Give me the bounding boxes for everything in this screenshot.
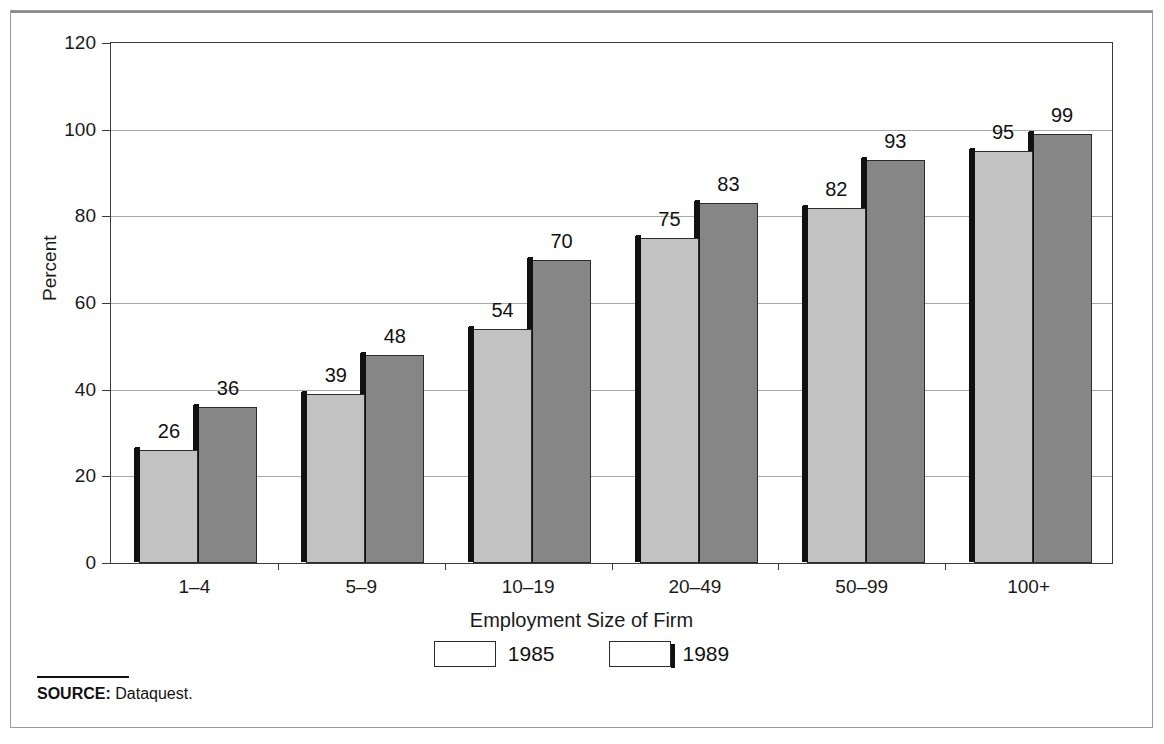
- bar-shadow: [969, 149, 975, 562]
- gridline: [111, 390, 1112, 391]
- bar-1985-20_49[interactable]: [640, 238, 699, 563]
- x-axis-title: Employment Size of Firm: [11, 609, 1152, 632]
- x-axis-tick-label: 5–9: [345, 576, 377, 598]
- x-axis-tick: [945, 563, 946, 570]
- gridline: [111, 216, 1112, 217]
- bar-value-label: 83: [717, 173, 739, 196]
- bar-1989-50_99[interactable]: [866, 160, 925, 563]
- bar-shadow: [802, 206, 808, 562]
- source-prefix: SOURCE:: [37, 685, 111, 702]
- y-axis-tick-label: 120: [64, 32, 96, 54]
- gridline: [111, 130, 1112, 131]
- source-text: SOURCE: Dataquest.: [37, 685, 193, 703]
- bar-1989-5_9[interactable]: [365, 355, 424, 563]
- plot-area: 0204060801001201–426365–9394810–19547020…: [110, 42, 1113, 564]
- y-axis-tick-label: 20: [75, 465, 96, 487]
- y-axis-tick-label: 80: [75, 205, 96, 227]
- bar-value-label: 48: [384, 325, 406, 348]
- y-axis-tick: [102, 390, 111, 391]
- bar-1985-50_99[interactable]: [807, 208, 866, 563]
- x-axis-tick-label: 50–99: [835, 576, 888, 598]
- x-axis-tick: [612, 563, 613, 570]
- x-axis-tick-label: 20–49: [668, 576, 721, 598]
- x-axis-tick: [778, 563, 779, 570]
- y-axis-tick-label: 40: [75, 379, 96, 401]
- bar-1985-10_19[interactable]: [473, 329, 532, 563]
- bar-1985-100+[interactable]: [974, 151, 1033, 563]
- bar-1985-1_4[interactable]: [139, 450, 198, 563]
- bar-shadow: [134, 448, 140, 562]
- legend-item-1989[interactable]: 1989: [609, 641, 730, 667]
- bar-value-label: 39: [325, 364, 347, 387]
- figure-frame: 0204060801001201–426365–9394810–19547020…: [10, 10, 1153, 728]
- bar-1985-5_9[interactable]: [306, 394, 365, 563]
- legend-item-1985[interactable]: 1985: [434, 641, 555, 667]
- x-axis-tick-label: 100+: [1007, 576, 1050, 598]
- bar-1989-10_19[interactable]: [532, 260, 591, 563]
- bar-value-label: 95: [992, 121, 1014, 144]
- x-axis-tick: [445, 563, 446, 570]
- y-axis-tick: [102, 303, 111, 304]
- bar-shadow: [301, 392, 307, 562]
- source-note: SOURCE: Dataquest.: [37, 676, 193, 704]
- y-axis-tick-label: 60: [75, 292, 96, 314]
- bar-1989-1_4[interactable]: [198, 407, 257, 563]
- y-axis-tick: [102, 563, 111, 564]
- bar-shadow: [635, 236, 641, 562]
- x-axis-tick: [278, 563, 279, 570]
- y-axis-tick: [102, 476, 111, 477]
- y-axis-tick: [102, 130, 111, 131]
- bar-value-label: 82: [825, 178, 847, 201]
- bar-value-label: 54: [491, 299, 513, 322]
- dark-gray-swatch-icon: [609, 641, 671, 667]
- bar-1989-100+[interactable]: [1033, 134, 1092, 563]
- y-axis-title: Percent: [39, 236, 61, 301]
- y-axis-tick-label: 0: [85, 552, 96, 574]
- legend-label: 1989: [683, 642, 730, 666]
- bar-value-label: 26: [158, 420, 180, 443]
- light-gray-swatch-icon: [434, 641, 496, 667]
- bar-value-label: 36: [217, 377, 239, 400]
- source-value: Dataquest.: [115, 685, 192, 702]
- bar-value-label: 70: [550, 230, 572, 253]
- x-axis-tick-label: 10–19: [502, 576, 555, 598]
- source-rule-divider: [37, 676, 129, 679]
- chart-legend: 1985 1989: [11, 641, 1152, 667]
- gridline: [111, 476, 1112, 477]
- y-axis-tick: [102, 43, 111, 44]
- gridline: [111, 303, 1112, 304]
- bar-1989-20_49[interactable]: [699, 203, 758, 563]
- y-axis-tick-label: 100: [64, 119, 96, 141]
- bar-shadow: [468, 327, 474, 562]
- bar-value-label: 75: [658, 208, 680, 231]
- bar-value-label: 93: [884, 130, 906, 153]
- y-axis-tick: [102, 216, 111, 217]
- legend-label: 1985: [508, 642, 555, 666]
- bar-value-label: 99: [1051, 104, 1073, 127]
- x-axis-tick-label: 1–4: [179, 576, 211, 598]
